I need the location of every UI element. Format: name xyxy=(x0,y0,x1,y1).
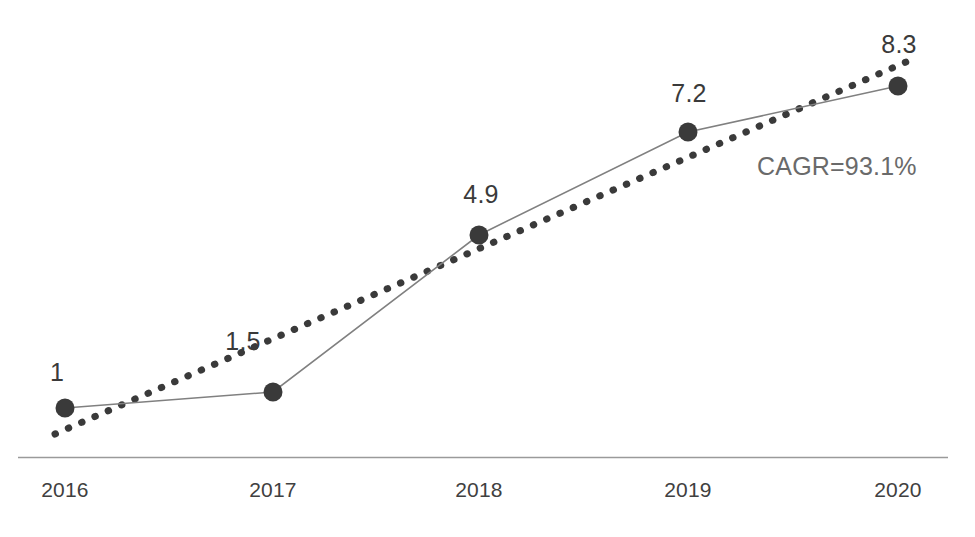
cagr-annotation: CAGR=93.1% xyxy=(757,152,917,181)
x-axis-tick-2017: 2017 xyxy=(249,478,297,502)
data-label-2018: 4.9 xyxy=(463,180,499,209)
data-point-marker[interactable] xyxy=(679,123,698,142)
x-axis-tick-2020: 2020 xyxy=(874,478,922,502)
data-point-marker[interactable] xyxy=(889,77,908,96)
x-axis-tick-2018: 2018 xyxy=(455,478,503,502)
trendline xyxy=(55,62,906,434)
data-label-2017: 1.5 xyxy=(225,327,261,356)
chart-canvas xyxy=(0,0,975,537)
data-label-2016: 1 xyxy=(50,358,64,387)
line-chart: 1 1.5 4.9 7.2 8.3 CAGR=93.1% 2016 2017 2… xyxy=(0,0,975,537)
data-point-marker[interactable] xyxy=(264,383,283,402)
x-axis-tick-2019: 2019 xyxy=(664,478,712,502)
data-label-2020: 8.3 xyxy=(881,30,917,59)
data-point-marker[interactable] xyxy=(56,399,75,418)
data-point-marker[interactable] xyxy=(470,226,489,245)
data-label-2019: 7.2 xyxy=(671,79,707,108)
x-axis-tick-2016: 2016 xyxy=(41,478,89,502)
